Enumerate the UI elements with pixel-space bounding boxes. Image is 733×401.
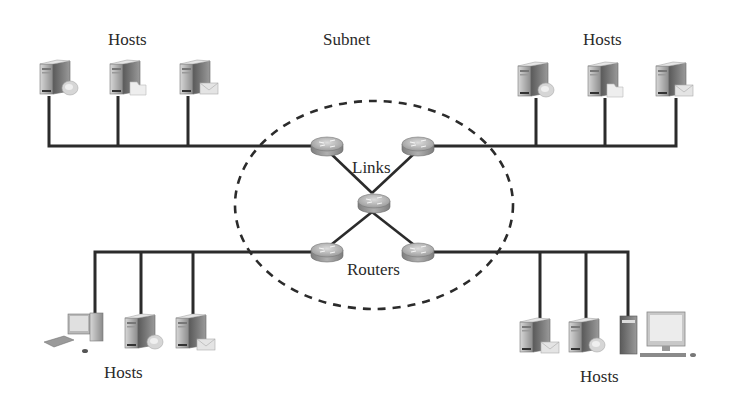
- router-bottom-left-icon: [311, 243, 343, 262]
- lan-bottom-right: [426, 252, 628, 318]
- router-top-left-icon: [311, 137, 343, 156]
- disk-icon: [62, 81, 78, 95]
- folder-icon: [130, 82, 146, 95]
- lan-bottom-left: [95, 252, 318, 314]
- mouse-icon: [82, 349, 88, 353]
- keyboard-icon: [640, 353, 686, 357]
- mouse-icon: [690, 353, 696, 357]
- router-bottom-right-icon: [402, 243, 434, 262]
- hosts-label-top-left: Hosts: [108, 30, 147, 50]
- mail-icon: [200, 83, 218, 94]
- disk-icon: [538, 83, 554, 97]
- subnet-label: Subnet: [323, 30, 370, 50]
- lan-top-left: [49, 96, 318, 146]
- tower-icon: [90, 313, 103, 341]
- host-bottom-right-1: [520, 318, 559, 353]
- network-diagram: [0, 0, 733, 401]
- host-top-left-1: [40, 60, 78, 95]
- mail-icon: [197, 339, 215, 350]
- mail-icon: [675, 85, 693, 96]
- disk-icon: [589, 338, 605, 352]
- lan-top-right: [426, 98, 676, 146]
- host-bottom-left-3: [176, 314, 215, 350]
- router-center-icon: [358, 194, 390, 213]
- host-bottom-right-4-monitor: [640, 312, 696, 357]
- router-top-right-icon: [402, 137, 434, 156]
- host-top-right-1: [518, 62, 554, 97]
- host-top-left-3: [180, 60, 218, 94]
- keyboard-icon: [44, 336, 74, 347]
- host-top-right-2: [588, 62, 623, 97]
- host-top-left-2: [110, 60, 146, 95]
- host-bottom-left-1-desktop: [44, 313, 103, 353]
- mail-icon: [541, 342, 559, 353]
- hosts-label-bottom-right: Hosts: [580, 367, 619, 387]
- links-label: Links: [352, 158, 391, 178]
- hosts-label-bottom-left: Hosts: [104, 363, 143, 383]
- host-bottom-right-3-tower: [620, 316, 637, 354]
- hosts-label-top-right: Hosts: [583, 30, 622, 50]
- disk-icon: [147, 335, 163, 349]
- host-bottom-right-2: [569, 318, 605, 352]
- host-bottom-left-2: [125, 314, 163, 349]
- host-top-right-3: [656, 62, 693, 96]
- routers-label: Routers: [347, 260, 400, 280]
- folder-icon: [607, 84, 623, 97]
